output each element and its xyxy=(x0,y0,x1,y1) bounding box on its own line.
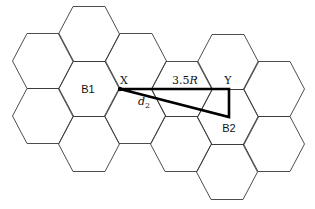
d-variable: d xyxy=(138,95,145,108)
distance-unit-r: R xyxy=(189,74,198,87)
cell-label-b1: B1 xyxy=(81,83,94,95)
point-label-y: Y xyxy=(223,74,232,87)
cell-label-b2: B2 xyxy=(222,122,235,134)
hex-cell xyxy=(13,89,74,144)
hex-cell xyxy=(244,62,305,117)
hex-cell xyxy=(105,89,166,144)
hex-cell xyxy=(59,117,120,172)
triangle-x-y-b2 xyxy=(120,89,229,117)
d-subscript: 2 xyxy=(145,101,150,110)
hexagon-grid xyxy=(13,7,305,200)
distance-label-3-5r: 3.5R xyxy=(172,74,198,87)
hex-cell xyxy=(151,117,212,172)
point-x-marker xyxy=(118,87,122,91)
distance-triangle xyxy=(118,87,229,117)
point-label-x: X xyxy=(120,74,128,87)
hex-cell xyxy=(59,7,120,62)
hex-cell-diagram: B1 B2 X Y 3.5R d2 xyxy=(0,0,315,209)
distance-value: 3.5 xyxy=(172,74,190,87)
hex-cell xyxy=(13,34,74,89)
